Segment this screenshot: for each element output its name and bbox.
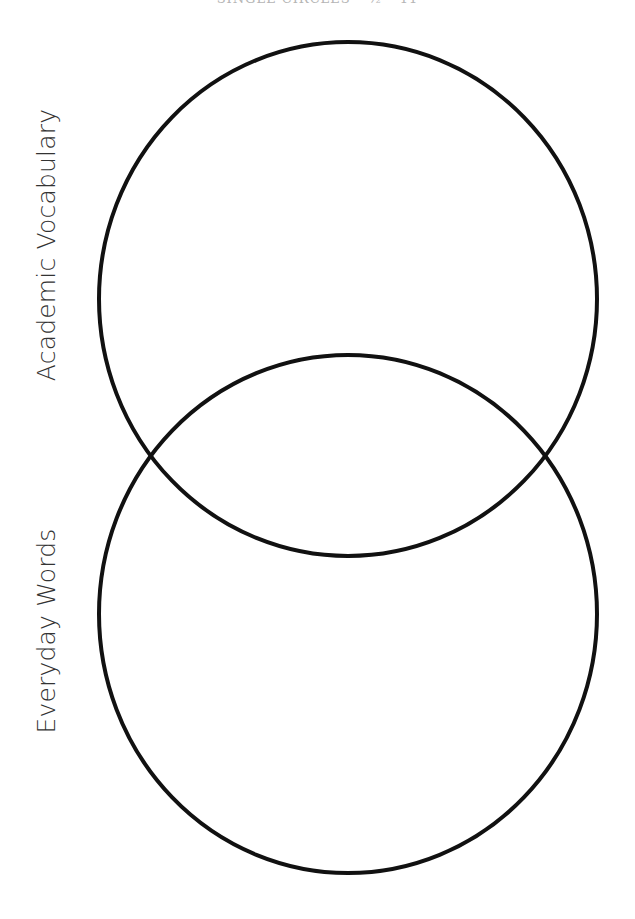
everyday-words-label: Everyday Words xyxy=(32,528,61,733)
academic-vocabulary-circle xyxy=(99,42,597,556)
everyday-words-circle xyxy=(99,355,597,873)
venn-diagram xyxy=(0,0,635,919)
academic-vocabulary-label: Academic Vocabulary xyxy=(32,109,61,381)
